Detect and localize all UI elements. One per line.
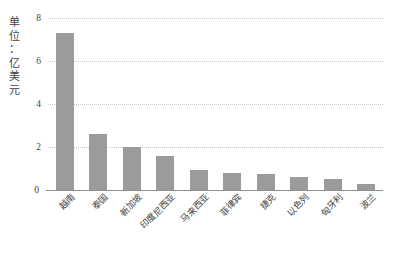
bar (123, 147, 141, 190)
bar (156, 156, 174, 190)
x-axis-category-label: 马来西亚 (178, 192, 211, 225)
plot-area: 02468 (48, 18, 383, 190)
x-axis-category-labels: 越南泰国新加坡印度尼西亚马来西亚菲律宾捷克以色列匈牙利波兰 (48, 192, 383, 252)
y-axis-title-char: 单 (6, 16, 22, 30)
bar (290, 177, 308, 190)
bars (48, 18, 383, 190)
bar (223, 173, 241, 190)
y-axis-tick-label: 0 (34, 186, 39, 196)
bar-chart: 单位：亿美元 02468 越南泰国新加坡印度尼西亚马来西亚菲律宾捷克以色列匈牙利… (0, 0, 395, 254)
y-axis-tick-label: 2 (36, 143, 41, 153)
y-axis-title-char: ： (6, 43, 22, 57)
x-axis-category-label: 新加坡 (118, 192, 145, 219)
bar (89, 134, 107, 190)
y-axis-tick-label: 6 (36, 57, 41, 67)
x-axis-category-label: 匈牙利 (319, 192, 346, 219)
y-axis-title-char: 位 (6, 30, 22, 44)
y-axis-title: 单位：亿美元 (6, 16, 22, 97)
bar (257, 174, 275, 190)
x-axis-category-label: 越南 (57, 192, 78, 213)
x-axis-category-label: 波兰 (359, 192, 380, 213)
bar (357, 184, 375, 190)
y-axis-title-char: 元 (6, 84, 22, 98)
x-axis-category-label: 泰国 (91, 192, 112, 213)
bar (190, 170, 208, 190)
x-axis-category-label: 捷克 (258, 192, 279, 213)
bar (56, 33, 74, 190)
bar (324, 179, 342, 190)
x-axis-category-label: 印度尼西亚 (138, 192, 178, 232)
y-axis-title-char: 亿 (6, 57, 22, 71)
y-axis-tick-label: 8 (36, 14, 41, 24)
x-axis-category-label: 以色列 (285, 192, 312, 219)
x-axis-line: 0 (46, 190, 383, 191)
y-axis-tick-label: 4 (36, 100, 41, 110)
y-axis-title-char: 美 (6, 70, 22, 84)
x-axis-category-label: 菲律宾 (218, 192, 245, 219)
